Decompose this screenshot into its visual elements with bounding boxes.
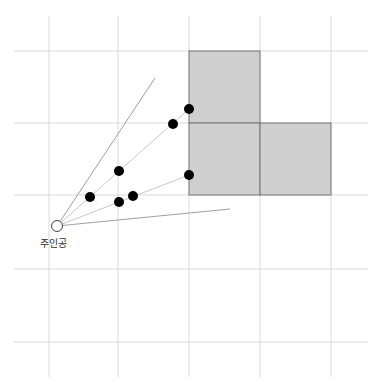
intersection-point bbox=[184, 170, 194, 180]
intersection-point bbox=[114, 166, 124, 176]
intersection-point bbox=[184, 104, 194, 114]
obstacle-block bbox=[189, 123, 260, 195]
intersection-point bbox=[85, 192, 95, 202]
origin-marker bbox=[52, 221, 63, 232]
origin-label: 주인공 bbox=[40, 235, 67, 250]
intersection-point bbox=[114, 197, 124, 207]
obstacle-blocks bbox=[189, 51, 331, 195]
obstacle-block bbox=[189, 51, 260, 123]
intersection-point bbox=[168, 119, 178, 129]
intersection-point bbox=[128, 191, 138, 201]
protagonist-circle bbox=[52, 221, 63, 232]
sight-ray bbox=[57, 209, 230, 226]
obstacle-block bbox=[260, 123, 331, 195]
diagram-canvas bbox=[0, 0, 379, 391]
